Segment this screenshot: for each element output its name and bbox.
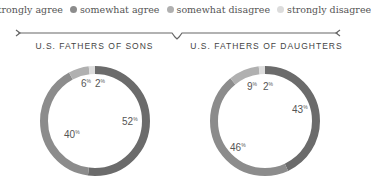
label-somewhat-agree: 46%: [230, 142, 246, 153]
label-strongly-agree: 43%: [292, 104, 308, 115]
label-somewhat-disagree: 9%: [247, 81, 258, 92]
label-strongly-agree: 52%: [122, 116, 138, 127]
legend-item-strongly-disagree: strongly disagree: [277, 4, 371, 15]
legend-label: somewhat agree: [80, 4, 160, 15]
label-strongly-disagree: 2%: [263, 81, 274, 92]
label-somewhat-disagree: 6%: [81, 78, 92, 89]
legend-item-somewhat-agree: somewhat agree: [70, 4, 160, 15]
donut-chart-sons: 52% 40% 6% 2%: [38, 62, 152, 182]
donut-chart-daughters: 43% 46% 9% 2%: [208, 62, 322, 182]
legend-label: strongly disagree: [287, 4, 371, 15]
chart-title-sons: U.S. FATHERS OF SONS: [6, 41, 183, 51]
label-strongly-disagree: 2%: [95, 78, 106, 89]
legend-item-somewhat-disagree: somewhat disagree: [167, 4, 271, 15]
legend-item-strongly-agree: strongly agree: [0, 4, 63, 15]
legend-dot-icon: [70, 6, 77, 13]
legend-label: somewhat disagree: [177, 4, 271, 15]
legend-label: strongly agree: [0, 4, 63, 15]
chart-legend: strongly agree somewhat agree somewhat d…: [0, 4, 354, 15]
legend-dot-icon: [167, 6, 174, 13]
chart-title-daughters: U.S. FATHERS OF DAUGHTERS: [178, 41, 355, 51]
label-somewhat-agree: 40%: [64, 129, 80, 140]
legend-dot-icon: [277, 6, 284, 13]
decorative-divider: [0, 27, 354, 41]
